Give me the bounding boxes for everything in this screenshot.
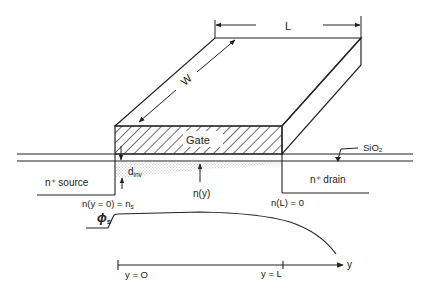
gate-label: Gate — [186, 134, 210, 146]
y0-label: y = O — [125, 269, 148, 280]
gate-side-face — [282, 38, 361, 154]
n-source-label: n(y = 0) = ns — [82, 198, 135, 210]
n-drain-label: n(L) = 0 — [271, 197, 304, 208]
y-axis-label: y — [347, 259, 352, 270]
width-arrow-up — [197, 40, 235, 72]
source-label: n⁺ source — [45, 177, 89, 188]
drain-label: n⁺ drain — [310, 174, 346, 185]
oxide-label: SiO₂ — [363, 142, 383, 153]
gate-block: Gate — [115, 38, 361, 154]
n-y-label: n(y) — [193, 188, 210, 199]
yL-label: y = L — [261, 268, 282, 279]
surface-potential-curve: ϕs — [86, 210, 336, 254]
y-axis: y = O y = L y — [118, 259, 352, 280]
width-dimension: W — [139, 40, 235, 122]
length-dimension: L — [215, 16, 361, 38]
gate-top-face — [115, 38, 361, 126]
source-region: n⁺ source — [37, 154, 115, 195]
width-arrow-down — [139, 90, 176, 122]
width-label: W — [178, 72, 194, 88]
phi-s-label: ϕs — [97, 210, 112, 226]
drain-region: n⁺ drain — [282, 154, 369, 193]
length-label: L — [285, 20, 291, 32]
mosfet-diagram: Gate L W SiO₂ n⁺ source n⁺ drain — [0, 0, 426, 291]
